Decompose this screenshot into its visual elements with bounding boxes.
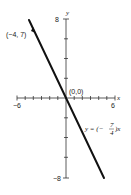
- equation-denominator: 4: [110, 129, 114, 137]
- x-min-label: −6: [13, 102, 21, 109]
- point-label: (−4, 7): [6, 31, 26, 39]
- line-graph: 8 y (−4, 7) (0,0) x −6 6 −8 y = (− 7 4 )…: [0, 0, 131, 195]
- x-axis-label: x: [116, 94, 121, 102]
- y-axis-label: y: [65, 9, 70, 17]
- y-min-label: −8: [53, 175, 61, 182]
- equation-suffix: )x: [114, 125, 121, 133]
- equation-numerator: 7: [110, 121, 114, 129]
- equation-prefix: y = (−: [84, 125, 104, 133]
- series-line: [29, 20, 104, 178]
- x-max-label: 6: [111, 102, 115, 109]
- equation-label: y = (− 7 4 )x: [84, 121, 121, 137]
- origin-label: (0,0): [69, 88, 83, 96]
- y-max-label: 8: [55, 16, 59, 23]
